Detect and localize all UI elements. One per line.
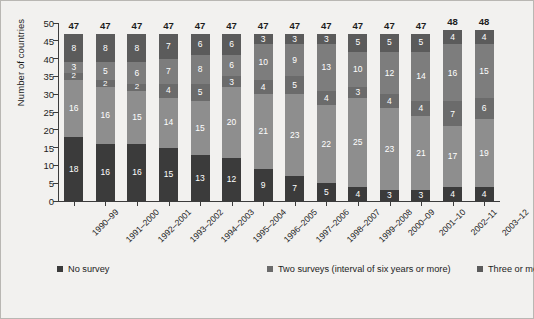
bar-segment-value: 10 — [258, 58, 267, 67]
bar-segment[interactable]: 8 — [64, 34, 83, 62]
bar-total-label: 47 — [68, 20, 79, 31]
bar-segment[interactable]: 2 — [64, 73, 83, 80]
bar-segment[interactable]: 4 — [159, 84, 178, 98]
x-axis-tick-mark — [169, 202, 170, 206]
bar-segment[interactable]: 4 — [317, 91, 336, 105]
bar-segment[interactable]: 14 — [411, 52, 430, 102]
legend-item[interactable]: Two surveys (interval of six years or mo… — [267, 262, 477, 276]
bar-segment[interactable]: 6 — [222, 34, 241, 55]
bar-segment[interactable]: 7 — [285, 176, 304, 201]
bar-stack: 1315586 — [191, 34, 210, 201]
bar-segment[interactable]: 3 — [64, 62, 83, 73]
bar-segment[interactable]: 3 — [254, 34, 273, 45]
bar-segment[interactable]: 15 — [475, 44, 494, 97]
bar-column[interactable]: 321414547 — [411, 23, 430, 201]
bar-segment[interactable]: 7 — [159, 34, 178, 59]
bar-column[interactable]: 161625847 — [96, 23, 115, 201]
bar-column[interactable]: 72359347 — [285, 23, 304, 201]
bar-segment[interactable]: 21 — [254, 94, 273, 169]
bar-segment[interactable]: 4 — [443, 30, 462, 44]
bar-segment[interactable]: 16 — [96, 87, 115, 144]
legend-item[interactable]: No survey — [57, 262, 267, 276]
bar-segment[interactable]: 4 — [254, 80, 273, 94]
bar-column[interactable]: 181623847 — [64, 23, 83, 201]
bar-column[interactable]: 522413347 — [317, 23, 336, 201]
bar-column[interactable]: 161526847 — [127, 23, 146, 201]
bar-segment-value: 5 — [355, 38, 360, 47]
bar-segment[interactable]: 4 — [475, 30, 494, 44]
bar-segment[interactable]: 8 — [96, 34, 115, 62]
bar-segment-value: 12 — [385, 69, 394, 78]
bar-segment[interactable]: 4 — [411, 101, 430, 115]
bar-segment[interactable]: 13 — [191, 155, 210, 201]
bar-segment[interactable]: 22 — [317, 105, 336, 183]
bar-segment[interactable]: 8 — [191, 55, 210, 83]
bar-segment[interactable]: 5 — [317, 183, 336, 201]
bar-segment-value: 6 — [229, 40, 234, 49]
bar-segment[interactable]: 3 — [411, 190, 430, 201]
bar-segment[interactable]: 7 — [443, 101, 462, 126]
bar-segment[interactable]: 21 — [411, 116, 430, 191]
bar-segment[interactable]: 5 — [285, 76, 304, 94]
bar-segment[interactable]: 10 — [348, 52, 367, 88]
bar-segment[interactable]: 16 — [443, 44, 462, 101]
bar-segment[interactable]: 8 — [127, 34, 146, 62]
bar-segment[interactable]: 15 — [159, 148, 178, 201]
bar-segment[interactable]: 12 — [222, 158, 241, 201]
bar-segment[interactable]: 19 — [475, 119, 494, 187]
bar-column[interactable]: 131558647 — [191, 23, 210, 201]
x-axis-tick-label: 1992–2001 — [156, 207, 193, 244]
x-axis-tick-label: 2001–10 — [437, 207, 468, 238]
bar-column[interactable]: 419615448 — [475, 23, 494, 201]
bar-segment[interactable]: 15 — [191, 101, 210, 154]
bar-segment[interactable]: 9 — [254, 169, 273, 201]
bar-segment[interactable]: 6 — [475, 98, 494, 119]
bar-segment[interactable]: 25 — [348, 98, 367, 187]
bar-stack: 4177164 — [443, 30, 462, 201]
bar-segment[interactable]: 3 — [317, 34, 336, 45]
bar-segment[interactable]: 4 — [348, 187, 367, 201]
legend-item[interactable]: Three or more surveys — [477, 262, 534, 276]
bar-column[interactable]: 122036647 — [222, 23, 241, 201]
bar-segment[interactable]: 3 — [285, 34, 304, 45]
bar-segment-value: 3 — [387, 191, 392, 200]
bar-segment[interactable]: 15 — [127, 91, 146, 144]
bar-segment[interactable]: 5 — [191, 84, 210, 102]
bar-segment[interactable]: 2 — [96, 80, 115, 87]
bar-column[interactable]: 323412547 — [380, 23, 399, 201]
bar-segment[interactable]: 5 — [96, 62, 115, 80]
bar-segment[interactable]: 4 — [475, 187, 494, 201]
bar-segment[interactable]: 3 — [348, 87, 367, 98]
bar-segment[interactable]: 7 — [159, 59, 178, 84]
bar-segment[interactable]: 12 — [380, 52, 399, 95]
bar-segment[interactable]: 16 — [96, 144, 115, 201]
bar-column[interactable]: 425310547 — [348, 23, 367, 201]
bar-segment[interactable]: 18 — [64, 137, 83, 201]
bar-segment[interactable]: 16 — [64, 80, 83, 137]
bar-segment[interactable]: 14 — [159, 98, 178, 148]
x-axis-tick-label: 2003–12 — [500, 207, 531, 238]
bar-segment[interactable]: 16 — [127, 144, 146, 201]
bar-segment[interactable]: 23 — [285, 94, 304, 176]
bar-segment[interactable]: 6 — [191, 34, 210, 55]
bar-segment[interactable]: 10 — [254, 44, 273, 80]
bar-segment[interactable]: 5 — [380, 34, 399, 52]
bar-segment[interactable]: 9 — [285, 44, 304, 76]
bar-total-label: 47 — [100, 20, 111, 31]
bar-segment[interactable]: 20 — [222, 87, 241, 158]
bar-segment[interactable]: 2 — [127, 84, 146, 91]
bar-segment[interactable]: 4 — [443, 187, 462, 201]
bar-segment[interactable]: 6 — [222, 55, 241, 76]
bar-segment[interactable]: 5 — [348, 34, 367, 52]
bar-segment[interactable]: 23 — [380, 108, 399, 190]
bar-segment[interactable]: 5 — [411, 34, 430, 52]
bar-column[interactable]: 151447747 — [159, 23, 178, 201]
bar-segment[interactable]: 3 — [222, 76, 241, 87]
bar-segment[interactable]: 3 — [380, 190, 399, 201]
bar-segment[interactable]: 6 — [127, 62, 146, 83]
bar-segment[interactable]: 17 — [443, 126, 462, 187]
bar-column[interactable]: 921410347 — [254, 23, 273, 201]
bar-segment[interactable]: 13 — [317, 44, 336, 90]
bar-segment[interactable]: 4 — [380, 94, 399, 108]
bar-column[interactable]: 417716448 — [443, 23, 462, 201]
